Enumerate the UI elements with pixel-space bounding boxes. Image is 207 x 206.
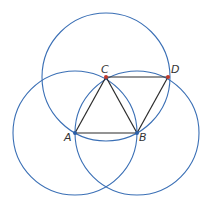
- point-d: [166, 75, 170, 79]
- point-a: [73, 131, 77, 135]
- construction-circles: [13, 13, 199, 195]
- label-b: B: [139, 131, 147, 144]
- label-d: D: [171, 63, 179, 76]
- segment-ac: [75, 77, 106, 133]
- label-a: A: [63, 131, 72, 144]
- label-c: C: [101, 63, 109, 76]
- segment-cb: [106, 77, 137, 133]
- geometry-diagram: ABCD: [0, 0, 207, 206]
- segments: [75, 77, 168, 133]
